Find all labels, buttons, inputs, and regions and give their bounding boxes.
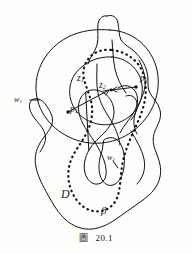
label-beta: β — [101, 205, 106, 216]
figure-caption: 圖20.1 — [0, 231, 192, 244]
label-p1: p1 — [70, 105, 78, 115]
label-w1: w1 — [107, 154, 115, 163]
caption-symbol: 圖 — [79, 233, 88, 243]
caption-number: 20.1 — [96, 233, 113, 243]
inner-wiggle-f — [131, 131, 145, 184]
point-z2-dot — [110, 89, 113, 92]
outer-boundary-D-left-lobe — [29, 99, 46, 152]
figure-drawing — [0, 0, 192, 254]
label-w2: w2 — [14, 96, 22, 105]
label-p2: p2 — [140, 74, 148, 84]
label-z2: z2 — [99, 81, 106, 91]
inner-wiggle-d — [112, 40, 126, 93]
point-p2-dot — [134, 85, 137, 88]
label-region-d: D — [61, 188, 70, 200]
inner-wiggle-e — [134, 60, 145, 134]
inner-wiggle-c — [97, 64, 120, 145]
label-z1: z1 — [77, 74, 84, 84]
figure-page: w2 w1 z1 z2 p1 p2 D β 圖20.1 — [0, 0, 192, 254]
